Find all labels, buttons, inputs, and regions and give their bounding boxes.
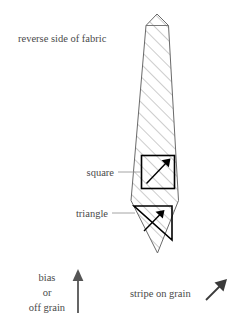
bias-label-line2: or (43, 287, 52, 298)
grain-arrow-up-right-icon (206, 279, 227, 300)
necktie-grain-diagram: reverse side of fabric square triangle b… (0, 0, 239, 327)
bias-callout: bias or off grain (29, 269, 84, 313)
grain-callout: stripe on grain (130, 279, 227, 300)
reverse-side-label: reverse side of fabric (18, 33, 107, 44)
bias-arrow-up-icon (73, 269, 84, 313)
diagram-root: reverse side of fabric square triangle b… (0, 0, 239, 327)
bias-label-line3: off grain (29, 302, 66, 313)
bias-label-line1: bias (39, 272, 56, 283)
square-label: square (87, 167, 115, 178)
triangle-label: triangle (76, 208, 108, 219)
stripe-on-grain-label: stripe on grain (130, 288, 191, 299)
